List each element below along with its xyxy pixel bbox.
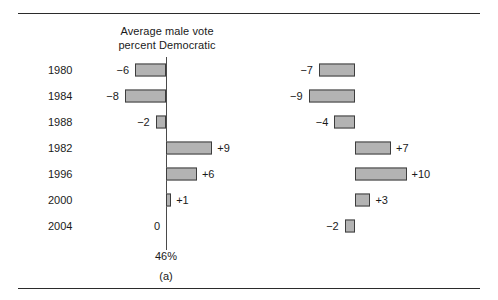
bar-value-male-1982: +9 <box>217 142 230 154</box>
panel-male-caption: (a) <box>136 270 196 282</box>
year-label: 1996 <box>48 168 88 180</box>
bar-male-1984 <box>125 90 166 103</box>
bar-male-1982 <box>166 142 212 155</box>
bar-value-male-1988: −2 <box>114 116 150 128</box>
year-label: 1982 <box>48 142 88 154</box>
year-label: 2000 <box>48 194 88 206</box>
bar-value-female-1988: −4 <box>292 116 328 128</box>
bar-female-1988 <box>334 116 355 129</box>
bar-female-1996 <box>355 168 407 181</box>
year-label: 1988 <box>48 116 88 128</box>
bar-male-1996 <box>166 168 197 181</box>
bar-male-2000 <box>166 194 171 207</box>
bar-value-female-1984: −9 <box>267 90 303 102</box>
bar-male-1980 <box>135 64 166 77</box>
bar-female-1984 <box>309 90 355 103</box>
panel-male-baseline-label: 46% <box>136 250 196 262</box>
bar-value-male-1980: −6 <box>93 64 129 76</box>
year-label: 2004 <box>48 220 88 232</box>
year-label: 1980 <box>48 64 88 76</box>
figure-container: Average male vote percent Democratic 46%… <box>0 0 498 300</box>
bar-value-female-1996: +10 <box>412 168 431 180</box>
bar-female-2004 <box>345 220 355 233</box>
bar-male-1988 <box>156 116 166 129</box>
bar-value-male-1984: −8 <box>83 90 119 102</box>
bar-value-female-1982: +7 <box>396 142 409 154</box>
bar-value-female-2004: −2 <box>303 220 339 232</box>
bar-value-female-2000: +3 <box>375 194 388 206</box>
bar-value-male-2004: 0 <box>124 220 160 232</box>
bar-value-female-1980: −7 <box>277 64 313 76</box>
bar-female-2000 <box>355 194 370 207</box>
bar-value-male-2000: +1 <box>176 194 189 206</box>
bar-female-1980 <box>319 64 355 77</box>
bar-female-1982 <box>355 142 391 155</box>
panel-male-title: Average male vote percent Democratic <box>72 24 262 52</box>
bar-value-male-1996: +6 <box>202 168 215 180</box>
